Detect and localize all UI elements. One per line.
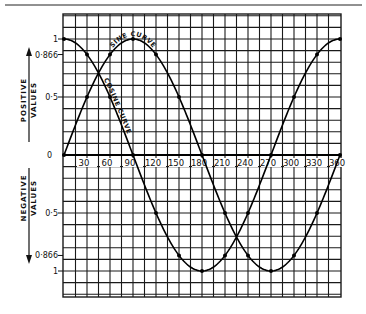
negative-label-line1: NEGATIVE — [20, 175, 28, 222]
origin-label: 0 — [47, 151, 52, 160]
sine-curve-point — [177, 95, 181, 99]
x-tick-label: 30 — [79, 158, 90, 168]
sine-curve-point — [246, 253, 250, 257]
cosine-curve-point — [315, 53, 319, 57]
sine-curve-point — [85, 95, 89, 99]
cosine-curve-point — [131, 153, 135, 157]
arrow-up-icon — [26, 47, 32, 56]
y-tick-label-positive: 0·5 — [45, 93, 58, 102]
x-tick-label: 120 — [145, 158, 161, 168]
y-tick-label-negative: 1 — [53, 267, 58, 276]
cosine-curve-point — [62, 37, 66, 41]
cosine-curve-point — [177, 253, 181, 257]
positive-label-line1: POSITIVE — [20, 78, 28, 122]
y-tick-label-positive: 1 — [53, 35, 58, 44]
x-tick-label: 90 — [125, 158, 136, 168]
negative-label-line2: VALUES — [30, 180, 38, 216]
cosine-curve-point — [292, 95, 296, 99]
x-tick-label: 210 — [214, 158, 230, 168]
cosine-curve-point — [246, 211, 250, 215]
cosine-curve-point — [154, 211, 158, 215]
x-tick-label: 330 — [306, 158, 322, 168]
sine-curve-point — [200, 153, 204, 157]
cosine-curve-point — [223, 253, 227, 257]
sine-curve-point — [269, 269, 273, 273]
arrow-down-icon — [26, 255, 32, 264]
sine-curve-point — [62, 153, 66, 157]
positive-label-line2: VALUES — [30, 82, 38, 118]
sine-curve-point — [315, 211, 319, 215]
x-tick-label: 60 — [102, 158, 113, 168]
sine-curve-point — [223, 211, 227, 215]
sine-curve-point — [108, 53, 112, 57]
sine-curve-point — [154, 53, 158, 57]
y-axis-tick-labels: 010·8660·50·50·8661 — [35, 35, 63, 276]
side-value-labels: POSITIVEVALUESNEGATIVEVALUES — [20, 47, 38, 264]
x-tick-label: 150 — [168, 158, 184, 168]
cosine-curve-point — [338, 37, 342, 41]
x-tick-label: 240 — [237, 158, 253, 168]
y-tick-label-negative: 0·866 — [35, 251, 58, 260]
sine-curve-point — [338, 153, 342, 157]
cosine-curve-point — [85, 53, 89, 57]
x-tick-label: 300 — [283, 158, 299, 168]
sine-cosine-chart: 306090120150180210240270300330360 010·86… — [0, 0, 366, 314]
x-axis-tick-labels: 306090120150180210240270300330360 — [77, 158, 350, 168]
cosine-curve-point — [200, 269, 204, 273]
y-tick-label-positive: 0·866 — [35, 51, 58, 60]
cosine-curve-point — [269, 153, 273, 157]
y-tick-label-negative: 0·5 — [45, 209, 58, 218]
sine-curve-point — [292, 253, 296, 257]
